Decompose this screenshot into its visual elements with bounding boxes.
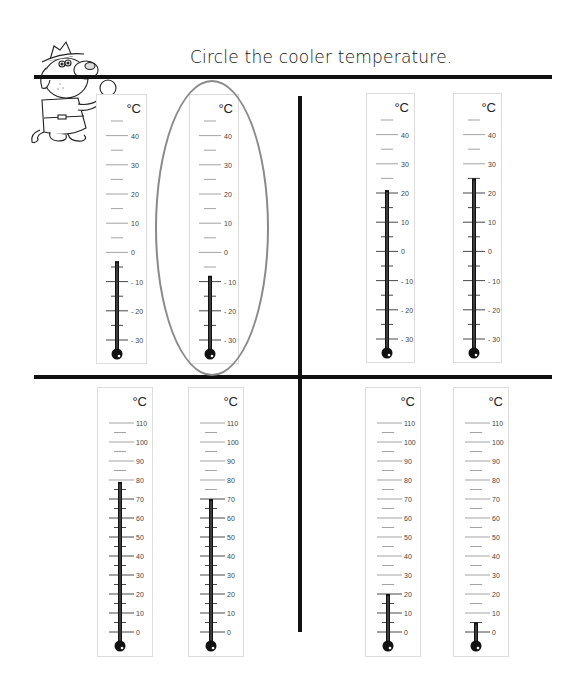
svg-text:- 20: - 20 [131, 308, 143, 315]
svg-text:- 30: - 30 [401, 336, 413, 343]
thermometer-scale-icon: - 30- 20- 10010203040 [454, 94, 503, 364]
svg-text:10: 10 [488, 219, 496, 226]
svg-text:100: 100 [492, 439, 504, 446]
svg-text:80: 80 [227, 477, 235, 484]
thermometer-scale-icon: 0102030405060708090100110 [98, 388, 154, 658]
svg-text:110: 110 [404, 420, 415, 427]
svg-text:30: 30 [227, 572, 235, 579]
svg-text:- 30: - 30 [224, 337, 236, 344]
svg-text:30: 30 [404, 572, 412, 579]
svg-text:- 10: - 10 [224, 279, 236, 286]
worksheet-title: Circle the cooler temperature. [190, 47, 452, 67]
svg-text:50: 50 [136, 534, 144, 541]
svg-text:10: 10 [136, 610, 144, 617]
svg-text:50: 50 [227, 534, 235, 541]
svg-text:100: 100 [404, 439, 416, 446]
svg-text:0: 0 [227, 629, 231, 636]
thermometer-scale-icon: 0102030405060708090100110 [366, 388, 422, 658]
svg-text:40: 40 [488, 132, 496, 139]
svg-text:- 10: - 10 [488, 278, 500, 285]
svg-text:60: 60 [136, 515, 144, 522]
svg-text:0: 0 [224, 249, 228, 256]
svg-text:40: 40 [131, 133, 139, 140]
svg-text:30: 30 [224, 162, 232, 169]
svg-text:80: 80 [136, 477, 144, 484]
svg-text:10: 10 [224, 220, 232, 227]
svg-text:50: 50 [492, 534, 500, 541]
svg-text:10: 10 [131, 220, 139, 227]
svg-text:110: 110 [136, 420, 147, 427]
svg-text:20: 20 [488, 190, 496, 197]
svg-text:20: 20 [227, 591, 235, 598]
svg-text:90: 90 [136, 458, 144, 465]
svg-text:20: 20 [136, 591, 144, 598]
svg-text:30: 30 [136, 572, 144, 579]
thermometer-t3[interactable]: °C- 30- 20- 10010203040 [366, 93, 415, 363]
svg-text:90: 90 [492, 458, 500, 465]
thermometer-t7[interactable]: °C0102030405060708090100110 [365, 387, 421, 657]
svg-text:10: 10 [492, 610, 500, 617]
svg-text:- 20: - 20 [224, 308, 236, 315]
svg-text:10: 10 [227, 610, 235, 617]
thermometer-scale-icon: 0102030405060708090100110 [454, 388, 510, 658]
svg-text:60: 60 [227, 515, 235, 522]
svg-text:0: 0 [492, 629, 496, 636]
svg-text:20: 20 [224, 191, 232, 198]
svg-text:60: 60 [492, 515, 500, 522]
svg-text:70: 70 [492, 496, 500, 503]
svg-text:- 10: - 10 [401, 278, 413, 285]
svg-text:- 30: - 30 [131, 337, 143, 344]
svg-text:40: 40 [136, 553, 144, 560]
svg-text:10: 10 [404, 610, 412, 617]
svg-text:- 20: - 20 [488, 307, 500, 314]
svg-text:40: 40 [492, 553, 500, 560]
thermometer-scale-icon: - 30- 20- 10010203040 [367, 94, 416, 364]
svg-text:30: 30 [492, 572, 500, 579]
top-divider [34, 75, 552, 79]
svg-text:70: 70 [227, 496, 235, 503]
svg-text:- 30: - 30 [488, 336, 500, 343]
svg-text:- 10: - 10 [131, 279, 143, 286]
thermometer-t6[interactable]: °C0102030405060708090100110 [188, 387, 244, 657]
svg-text:20: 20 [401, 190, 409, 197]
svg-text:30: 30 [401, 161, 409, 168]
svg-text:30: 30 [488, 161, 496, 168]
svg-text:0: 0 [136, 629, 140, 636]
svg-text:20: 20 [131, 191, 139, 198]
svg-text:- 20: - 20 [401, 307, 413, 314]
svg-text:10: 10 [401, 219, 409, 226]
svg-text:0: 0 [401, 248, 405, 255]
svg-text:80: 80 [492, 477, 500, 484]
svg-text:110: 110 [227, 420, 238, 427]
svg-text:40: 40 [227, 553, 235, 560]
middle-divider [34, 375, 552, 379]
svg-text:70: 70 [404, 496, 412, 503]
thermometer-t1[interactable]: °C- 30- 20- 10010203040 [96, 94, 147, 364]
svg-text:20: 20 [404, 591, 412, 598]
thermometer-t5[interactable]: °C0102030405060708090100110 [97, 387, 153, 657]
svg-text:0: 0 [488, 248, 492, 255]
svg-text:100: 100 [227, 439, 239, 446]
svg-text:0: 0 [131, 249, 135, 256]
svg-text:20: 20 [492, 591, 500, 598]
svg-text:40: 40 [224, 133, 232, 140]
svg-text:90: 90 [227, 458, 235, 465]
vertical-divider [298, 96, 302, 632]
svg-text:30: 30 [131, 162, 139, 169]
thermometer-scale-icon: - 30- 20- 10010203040 [190, 95, 240, 365]
svg-text:50: 50 [404, 534, 412, 541]
svg-text:100: 100 [136, 439, 148, 446]
thermometer-t8[interactable]: °C0102030405060708090100110 [453, 387, 509, 657]
svg-text:40: 40 [404, 553, 412, 560]
thermometer-t4[interactable]: °C- 30- 20- 10010203040 [453, 93, 502, 363]
thermometer-t2[interactable]: °C- 30- 20- 10010203040 [189, 94, 239, 364]
thermometer-scale-icon: - 30- 20- 10010203040 [97, 95, 148, 365]
svg-text:110: 110 [492, 420, 503, 427]
thermometer-scale-icon: 0102030405060708090100110 [189, 388, 245, 658]
svg-text:60: 60 [404, 515, 412, 522]
svg-text:40: 40 [401, 132, 409, 139]
svg-text:0: 0 [404, 629, 408, 636]
svg-text:90: 90 [404, 458, 412, 465]
svg-text:80: 80 [404, 477, 412, 484]
svg-text:70: 70 [136, 496, 144, 503]
